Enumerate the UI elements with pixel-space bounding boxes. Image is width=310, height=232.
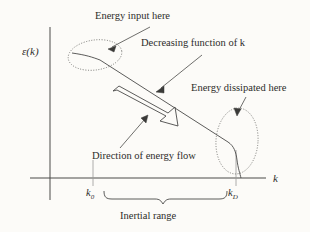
- energy-input-label: Energy input here: [95, 11, 170, 22]
- inertial-range-label: Inertial range: [120, 211, 176, 222]
- energy-dissipated-arrowhead: [234, 108, 241, 116]
- energy-input-ellipse: [66, 36, 124, 73]
- energy-spectrum-diagram: ε(k) k Energy input here Decreasing func…: [0, 0, 310, 232]
- direction-of-flow-label: Direction of energy flow: [92, 151, 196, 162]
- kd-tick-label: kD: [228, 188, 238, 201]
- inertial-range-brace: [104, 191, 227, 204]
- diagram-canvas: [0, 0, 310, 232]
- decreasing-function-label: Decreasing function of k: [141, 38, 245, 49]
- energy-dissipated-label: Energy dissipated here: [191, 83, 286, 94]
- kd-tick-subscript: D: [233, 193, 238, 201]
- x-axis-label: k: [273, 173, 278, 184]
- decreasing-function-arrowhead: [156, 86, 164, 93]
- k0-tick-subscript: 0: [91, 193, 95, 201]
- dissipation-ellipse: [214, 107, 261, 176]
- direction-flow-arrowhead: [141, 115, 148, 123]
- direction-flow-leader-line: [120, 119, 145, 148]
- y-axis-label: ε(k): [22, 46, 39, 57]
- k0-tick-label: k0: [86, 188, 94, 201]
